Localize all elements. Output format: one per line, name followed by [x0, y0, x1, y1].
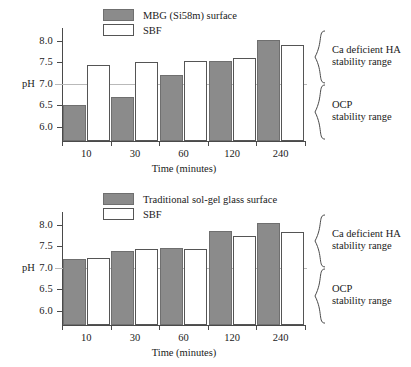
- y-axis-tick-label: 6.0: [13, 306, 53, 316]
- range-annotation-label: OCPstability range: [332, 283, 392, 308]
- x-axis-tick: [208, 142, 209, 146]
- x-axis-tick: [305, 326, 306, 330]
- y-axis-tick-label: 6.5: [13, 284, 53, 294]
- bar-sbf: [233, 58, 256, 141]
- range-annotation-label-line2: stability range: [332, 240, 401, 253]
- x-axis-tick: [62, 326, 63, 330]
- x-axis-tick-label: 10: [63, 148, 109, 159]
- legend-entry: MBG (Si58m) surface: [103, 8, 237, 22]
- x-axis-tick-label: 240: [258, 148, 304, 159]
- x-axis-tick-label: 120: [209, 148, 255, 159]
- x-axis-tick-label: 30: [112, 332, 158, 343]
- bar-sbf: [281, 45, 304, 141]
- y-axis-tick-label: 8.0: [13, 36, 53, 46]
- range-annotation-label-line1: OCP: [332, 283, 392, 296]
- y-axis-tick: [57, 41, 62, 42]
- x-axis-tick-label: 60: [161, 332, 207, 343]
- range-annotation-label-line2: stability range: [332, 111, 392, 124]
- legend-label: Traditional sol-gel glass surface: [143, 194, 277, 205]
- x-axis-tick: [256, 326, 257, 330]
- y-axis-tick: [57, 62, 62, 63]
- x-axis-tick: [256, 142, 257, 146]
- bar-surface: [160, 75, 183, 141]
- x-axis-line: [62, 325, 306, 326]
- y-axis-tick: [57, 127, 62, 128]
- y-axis-tick-label: 8.0: [13, 220, 53, 230]
- legend-swatch-filled-icon: [103, 9, 134, 21]
- bar-surface: [257, 40, 280, 141]
- y-axis-tick: [57, 105, 62, 106]
- y-axis-tick-label: 7.0: [13, 263, 53, 273]
- curly-brace-icon: [312, 84, 328, 140]
- range-annotation-label: Ca deficient HAstability range: [332, 228, 401, 253]
- bar-sbf: [233, 236, 256, 325]
- bar-surface: [63, 105, 86, 141]
- range-annotation-label-line2: stability range: [332, 295, 392, 308]
- legend-entry: Traditional sol-gel glass surface: [103, 192, 277, 206]
- x-axis-tick-label: 60: [161, 148, 207, 159]
- y-axis-tick-label: 7.0: [13, 79, 53, 89]
- bar-sbf: [184, 249, 207, 325]
- figure-two-ph-bar-charts: MBG (Si58m) surface SBF Time (minutes) p…: [0, 0, 411, 367]
- range-annotation-label-line1: OCP: [332, 99, 392, 112]
- bar-surface: [257, 223, 280, 325]
- bar-sbf: [135, 62, 158, 141]
- range-annotation-label-line2: stability range: [332, 56, 401, 69]
- x-axis-tick: [111, 142, 112, 146]
- bar-surface: [160, 248, 183, 325]
- bar-surface: [63, 259, 86, 325]
- bar-surface: [209, 231, 232, 325]
- x-axis-tick: [111, 326, 112, 330]
- y-axis-tick-label: 7.5: [13, 241, 53, 251]
- chart-panel-top: MBG (Si58m) surface SBF Time (minutes) p…: [0, 0, 411, 183]
- bar-sbf: [87, 65, 110, 141]
- bar-sbf: [135, 249, 158, 325]
- curly-brace-icon: [312, 214, 328, 268]
- bar-sbf: [281, 232, 304, 325]
- bar-surface: [111, 251, 134, 325]
- y-axis-tick-label: 6.5: [13, 100, 53, 110]
- chart-panel-bottom: Traditional sol-gel glass surface SBF Ti…: [0, 184, 411, 367]
- x-axis-title: Time (minutes): [62, 163, 306, 174]
- x-axis-tick: [159, 326, 160, 330]
- legend-label: MBG (Si58m) surface: [143, 10, 237, 21]
- bar-sbf: [184, 61, 207, 141]
- range-annotation-label: Ca deficient HAstability range: [332, 44, 401, 69]
- x-axis-tick: [159, 142, 160, 146]
- y-axis-tick-label: 6.0: [13, 122, 53, 132]
- y-axis-tick: [57, 225, 62, 226]
- y-axis-tick-label: 7.5: [13, 57, 53, 67]
- range-annotation-label-line1: Ca deficient HA: [332, 228, 401, 241]
- x-axis-tick: [305, 142, 306, 146]
- bar-surface: [111, 97, 134, 141]
- y-axis-tick: [57, 289, 62, 290]
- range-annotation-label: OCPstability range: [332, 99, 392, 124]
- x-axis-title: Time (minutes): [62, 347, 306, 358]
- y-axis-tick: [57, 311, 62, 312]
- x-axis-tick-label: 240: [258, 332, 304, 343]
- x-axis-line: [62, 141, 306, 142]
- bar-surface: [209, 61, 232, 141]
- bar-sbf: [87, 258, 110, 325]
- x-axis-tick-label: 30: [112, 148, 158, 159]
- x-axis-tick: [208, 326, 209, 330]
- legend-swatch-filled-icon: [103, 193, 134, 205]
- range-annotation-label-line1: Ca deficient HA: [332, 44, 401, 57]
- curly-brace-icon: [312, 268, 328, 324]
- x-axis-tick-label: 120: [209, 332, 255, 343]
- x-axis-tick: [62, 142, 63, 146]
- curly-brace-icon: [312, 30, 328, 84]
- x-axis-tick-label: 10: [63, 332, 109, 343]
- y-axis-tick: [57, 246, 62, 247]
